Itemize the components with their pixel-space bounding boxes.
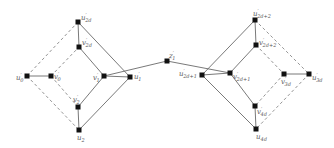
dashed-edge-u0p-u2dp: [27, 22, 78, 76]
node-v0p: [49, 74, 54, 79]
label-u2d1p: u′2d+1: [179, 68, 197, 79]
label-v2d1p: v′2d+1: [233, 71, 250, 82]
node-v2dp: [77, 45, 82, 50]
solid-edge-u2d1p-v2d1p: [202, 73, 230, 75]
label-v2p: v′2: [73, 94, 80, 105]
node-u0p: [25, 74, 30, 79]
node-v1p: [102, 74, 107, 79]
label-v3dp: v′3d: [281, 76, 291, 87]
dashed-edge-v2d2p-v3dp: [256, 45, 284, 74]
solid-edge-v2p-u2: [78, 107, 79, 130]
nodes: [25, 18, 312, 133]
node-v2p: [76, 105, 81, 110]
solid-edge-v4dp-u4d: [255, 106, 256, 129]
solid-edge-u2d1p-u2d2p: [202, 20, 255, 75]
label-v2dp: v′2d: [82, 37, 92, 48]
label-u2dp: u′2d: [81, 12, 92, 23]
node-u2d1p: [200, 73, 205, 78]
label-u1p: u′1: [134, 71, 141, 82]
label-v1p: v′1: [93, 72, 100, 83]
node-labels: u′0v′0u′2dv′2dv′2u2v′1u′1z′1u′2d+1v′2d+1…: [16, 8, 323, 143]
solid-edge-u2dp-v2dp: [78, 22, 79, 47]
label-z1p: z′1: [168, 50, 176, 61]
dashed-edge-u0p-u2: [27, 76, 79, 130]
dashed-edge-v0p-v2dp: [51, 47, 79, 76]
node-v2d1p: [228, 71, 233, 76]
node-u3dp: [307, 72, 312, 77]
solid-edge-v2d2p-v2d1p: [230, 45, 256, 73]
label-v4dp: v′4d: [257, 106, 267, 117]
solid-edge-u2-u1p: [79, 77, 130, 130]
solid-edge-u2d1p-u4d: [202, 75, 256, 129]
label-u3dp: u′3d: [312, 72, 323, 83]
label-u0p: u′0: [16, 72, 24, 83]
label-v2d2p: v′2d+2: [259, 37, 276, 48]
node-u4d: [254, 127, 259, 132]
solid-edge-v1p-v2p: [78, 76, 104, 107]
label-u4d: u4d: [256, 133, 267, 142]
node-u2dp: [76, 20, 81, 25]
node-u1p: [128, 75, 133, 80]
solid-edge-v2dp-v1p: [79, 47, 104, 76]
node-u2: [77, 128, 82, 133]
solid-edge-z1p-v2d1p: [167, 61, 230, 73]
label-u2d2p: u′2d+2: [253, 8, 271, 19]
graph-diagram: u′0v′0u′2dv′2dv′2u2v′1u′1z′1u′2d+1v′2d+1…: [0, 0, 334, 148]
solid-edge-u2d2p-v2d2p: [255, 20, 256, 45]
label-v0p: v′0: [54, 71, 62, 82]
dashed-edge-v3dp-v4dp: [255, 74, 284, 106]
label-u2: u2: [77, 134, 85, 143]
solid-edge-v1p-u1p: [104, 76, 130, 77]
solid-edge-u2dp-u1p: [78, 22, 130, 77]
node-v2d2p: [254, 43, 259, 48]
